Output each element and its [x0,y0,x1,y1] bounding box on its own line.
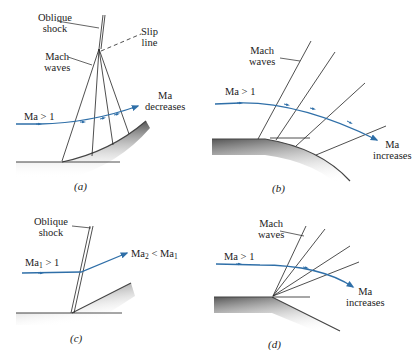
label-slip: Slip [141,26,158,37]
panel-b [212,41,386,192]
label-mach: Mach [258,218,284,229]
streamline-b [215,103,377,140]
label-oblique-shock-a: Oblique shock [38,12,72,34]
label-inflow-d: Ma > 1 [224,251,254,262]
streamline-d [216,264,353,287]
panel-a [16,15,150,178]
label-ma: Ma [346,286,384,297]
label-shock: shock [38,23,72,34]
oblique-shock-a [99,15,103,49]
label-lt-ma: < Ma [149,248,174,259]
mach-waves-b [258,41,386,155]
label-mach-waves-b: Mach waves [249,45,275,67]
label-ma: Ma [25,257,39,268]
label-gt-1: > 1 [43,257,59,268]
label-increases: increases [373,150,411,161]
label-line: line [141,37,158,48]
label-oblique-shock-c: Oblique shock [34,216,68,238]
label-mach-waves-a: Mach waves [44,51,70,73]
label-inflow-a: Ma > 1 [24,111,54,122]
label-waves: waves [258,229,284,240]
label-outflow-b: Ma increases [373,139,411,161]
wall-d [214,297,340,339]
label-sub-1b: 1 [174,252,178,261]
slip-line-a [101,34,141,51]
caption-d: (d) [268,338,281,350]
label-outflow-d: Ma increases [346,286,384,308]
label-oblique: Oblique [38,12,72,23]
label-waves: waves [249,56,275,67]
caption-b: (b) [272,182,285,194]
label-waves: waves [44,62,70,73]
label-increases: increases [346,297,384,308]
caption-c: (c) [70,332,82,344]
label-mach-waves-d: Mach waves [258,218,284,240]
label-mach: Mach [249,45,275,56]
label-outflow-c: Ma2 < Ma1 [131,248,178,262]
label-mach: Mach [44,51,70,62]
label-shock: shock [34,227,68,238]
label-ma: Ma [373,139,411,150]
label-oblique: Oblique [34,216,68,227]
caption-a: (a) [74,180,87,192]
wall-c [16,283,135,325]
panel-c [16,226,135,325]
label-outflow-a: Ma decreases [145,90,185,112]
label-ma2: Ma [131,248,145,259]
label-inflow-b: Ma > 1 [225,86,255,97]
label-ma: Ma [145,90,185,101]
panel-d [214,226,359,339]
label-slip-line-a: Slip line [141,26,158,48]
wall-a [16,121,150,178]
label-inflow-c: Ma1 > 1 [25,257,59,271]
label-decreases: decreases [145,101,185,112]
